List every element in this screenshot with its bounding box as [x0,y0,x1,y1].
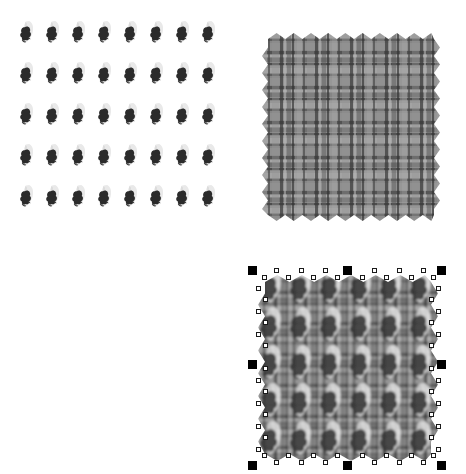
scale-handle-bottom-right[interactable] [437,461,446,470]
canvas-root[interactable] [0,0,466,474]
scale-handle-bottom-center[interactable] [343,461,352,470]
scale-handle-middle-left[interactable] [248,360,257,369]
scale-handle-top-right[interactable] [437,266,446,275]
selection-scale-handles[interactable] [0,0,466,474]
scale-handle-top-left[interactable] [248,266,257,275]
scale-handle-middle-right[interactable] [437,360,446,369]
scale-handle-top-center[interactable] [343,266,352,275]
scale-handle-bottom-left[interactable] [248,461,257,470]
